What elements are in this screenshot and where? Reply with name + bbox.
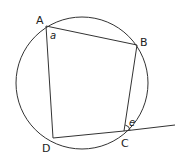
angle-label-e: e [129,117,135,128]
label-a-vertex: A [36,14,44,27]
label-d-vertex: D [42,142,50,155]
cyclic-quadrilateral-diagram: A B C D a e [0,0,184,157]
quadrilateral-abcd [46,26,137,138]
angle-label-a: a [50,30,56,41]
circumcircle [16,17,148,149]
label-c-vertex: C [121,137,129,150]
label-b-vertex: B [140,36,148,49]
